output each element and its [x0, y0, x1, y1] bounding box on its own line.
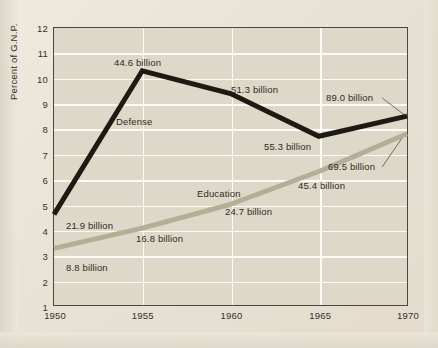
x-tick-1970: 1970	[397, 310, 419, 321]
defense-1965-label: 55.3 billion	[264, 141, 311, 152]
chart-page: Percent of G.N.P. 12 11 10 9 8 7 6 5 4 3…	[0, 0, 438, 348]
y-tick-3: 3	[43, 251, 48, 262]
x-tick-1950: 1950	[44, 310, 66, 321]
y-tick-4: 4	[43, 225, 48, 236]
y-tick-11: 11	[38, 48, 48, 59]
y-tick-8: 8	[43, 124, 48, 135]
leader-line-89-0-billion	[382, 98, 405, 115]
education-1950-label: 8.8 billion	[66, 262, 108, 273]
y-tick-10: 10	[37, 73, 48, 84]
paper-edge-bottom	[0, 332, 438, 348]
defense-1955-label: 44.6 billion	[114, 57, 161, 68]
y-tick-2: 2	[43, 276, 48, 287]
education-1965-label: 45.4 billion	[298, 180, 345, 191]
plot-area: 12 11 10 9 8 7 6 5 4 3 2 1 1950 1955 196…	[53, 27, 408, 306]
x-tick-1960: 1960	[221, 310, 243, 321]
x-tick-1955: 1955	[132, 310, 154, 321]
defense-1960-label: 51.3 billion	[231, 84, 278, 95]
y-tick-6: 6	[43, 175, 48, 186]
defense-1970-label: 89.0 billion	[326, 92, 373, 103]
defense-1950-label: 21.9 billion	[66, 220, 113, 231]
education-1955-label: 16.8 billion	[136, 233, 183, 244]
paper-edge-right	[424, 0, 438, 348]
y-tick-5: 5	[43, 200, 48, 211]
defense-series-label: Defense	[116, 116, 152, 127]
education-1970-label: 69.5 billion	[328, 161, 375, 172]
y-tick-9: 9	[43, 99, 48, 110]
education-series-label: Education	[197, 188, 241, 199]
education-1960-label: 24.7 billion	[225, 206, 272, 217]
y-tick-7: 7	[43, 149, 48, 160]
y-axis-title: Percent of G.N.P.	[8, 23, 19, 100]
y-tick-12: 12	[37, 23, 48, 34]
x-tick-1965: 1965	[309, 310, 331, 321]
